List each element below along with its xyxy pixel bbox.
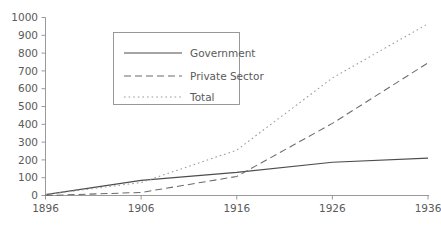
legend-label: Total: [189, 91, 215, 103]
y-tick-label: 100: [18, 171, 38, 183]
x-tick-label: 1916: [223, 202, 250, 214]
y-axis-tick-labels: 01002003004005006007008009001000: [11, 11, 38, 201]
y-tick-label: 0: [31, 189, 38, 201]
chart-legend: GovernmentPrivate SectorTotal: [114, 33, 265, 105]
line-chart: 01002003004005006007008009001000 1896190…: [0, 0, 441, 229]
legend-label: Private Sector: [190, 70, 264, 82]
x-tick-label: 1896: [32, 202, 59, 214]
y-tick-label: 200: [18, 154, 38, 166]
x-tick-label: 1906: [128, 202, 155, 214]
y-tick-label: 700: [18, 65, 38, 77]
y-axis-tick-marks: [42, 18, 46, 196]
x-tick-label: 1936: [415, 202, 441, 214]
y-tick-label: 300: [18, 136, 38, 148]
legend-box: [114, 33, 240, 105]
y-tick-label: 600: [18, 82, 38, 94]
y-tick-label: 500: [18, 100, 38, 112]
y-tick-label: 900: [18, 29, 38, 41]
x-axis-tick-labels: 18961906191619261936: [32, 202, 441, 214]
x-tick-label: 1926: [319, 202, 346, 214]
chart-canvas: 01002003004005006007008009001000 1896190…: [0, 0, 441, 229]
y-tick-label: 1000: [11, 11, 38, 23]
y-tick-label: 400: [18, 118, 38, 130]
x-axis-tick-marks: [46, 196, 429, 200]
y-tick-label: 800: [18, 47, 38, 59]
legend-label: Government: [190, 47, 255, 59]
